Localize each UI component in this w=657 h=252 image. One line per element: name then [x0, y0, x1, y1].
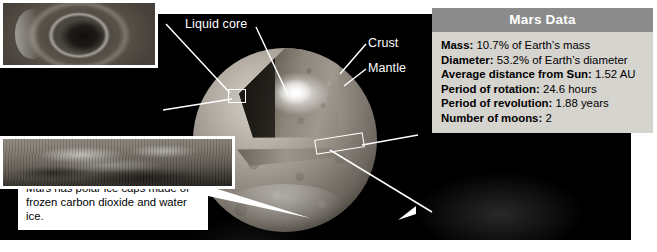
olympus-mons-scarp: [15, 9, 48, 59]
valles-marineris-striations: [3, 139, 232, 186]
label-crust-text: Crust: [368, 36, 398, 50]
row-label: Diameter:: [441, 54, 494, 66]
mars-diagram: Liquid core Crust Mantle Olympus Mons is…: [0, 0, 657, 252]
label-liquid-core: Liquid core: [185, 17, 247, 31]
table-row: Mass: 10.7% of Earth’s mass: [441, 38, 644, 53]
label-mantle-text: Mantle: [368, 61, 406, 75]
table-row: Diameter: 53.2% of Earth’s diameter: [441, 53, 644, 68]
label-mantle: Mantle: [368, 61, 406, 75]
row-label: Period of rotation:: [441, 83, 540, 95]
olympus-mons-photo: [0, 0, 158, 68]
south-polar-cap: [226, 184, 344, 228]
table-row: Number of moons: 2: [441, 111, 644, 126]
row-label: Average distance from Sun:: [441, 68, 592, 80]
table-row: Period of revolution: 1.88 years: [441, 96, 644, 111]
valles-marineris-photo: [0, 136, 235, 189]
row-value: 24.6 hours: [540, 83, 597, 95]
mars-data-header: Mars Data: [432, 8, 653, 32]
row-label: Period of revolution:: [441, 97, 552, 109]
label-crust: Crust: [368, 36, 398, 50]
olympus-mons-marker-box: [228, 89, 246, 103]
table-row: Average distance from Sun: 1.52 AU: [441, 67, 644, 82]
row-label: Number of moons:: [441, 112, 542, 124]
mars-data-table: Mars Data Mass: 10.7% of Earth’s mass Di…: [432, 8, 653, 133]
row-value: 53.2% of Earth’s diameter: [494, 54, 628, 66]
row-label: Mass:: [441, 39, 473, 51]
row-value: 2: [542, 112, 552, 124]
label-liquid-core-text: Liquid core: [185, 17, 247, 31]
mars-data-body: Mass: 10.7% of Earth’s mass Diameter: 53…: [432, 32, 653, 133]
row-value: 10.7% of Earth’s mass: [473, 39, 590, 51]
row-value: 1.88 years: [552, 97, 608, 109]
row-value: 1.52 AU: [592, 68, 636, 80]
table-row: Period of rotation: 24.6 hours: [441, 82, 644, 97]
